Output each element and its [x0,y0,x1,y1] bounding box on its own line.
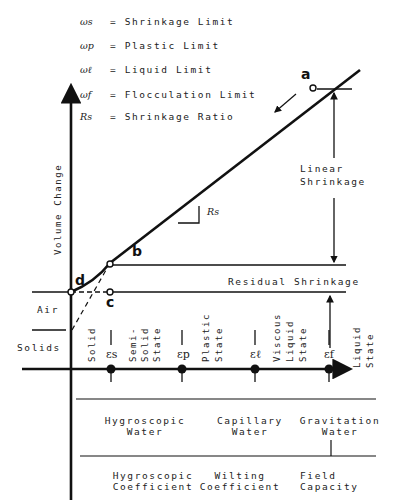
legend-symbol: ωp [80,40,110,51]
legend-item: ωℓ= Liquid Limit [80,64,212,75]
state-viscous-1: Viscous [272,313,282,362]
state-semisolid-3: State [152,327,162,362]
water-capillary: CapillaryWater [200,415,300,437]
state-liquid-2: State [365,333,375,368]
legend-item: ωp= Plastic Limit [80,40,220,51]
air-label: Air [37,304,59,315]
solids-label: Solids [17,342,61,353]
coef-wilting: WiltingCoefficient [190,470,290,492]
state-plastic-1: Plastic [201,313,211,362]
point-label-c: c [106,294,114,310]
point-label-b: b [132,243,142,259]
limit-ef: εf [324,348,334,361]
limit-es: εs [106,348,117,361]
state-viscous-2: Liquid [285,320,295,362]
point-b [107,261,113,267]
point-label-d: d [75,272,85,288]
legend-symbol: Rs [80,111,110,122]
state-liquid-1: Liquid [352,326,362,368]
slope-label: Rs [207,206,219,217]
linear-shrinkage-label: Linear [300,163,344,174]
legend-item: Rs= Shrinkage Ratio [80,111,234,122]
linear-shrinkage-label-2: Shrinkage [300,176,366,187]
legend-symbol: ωs [80,16,110,27]
legend-symbol: ωf [80,89,110,100]
legend-item: ωf= Flocculation Limit [80,89,256,100]
point-a [310,85,316,91]
limit-ep: εp [177,348,190,361]
state-semisolid-1: Semi- [128,327,138,362]
limit-el: εℓ [250,348,261,361]
point-d [68,289,74,295]
water-hygroscopic: HygroscopicWater [90,415,200,437]
water-gravitation: GravitationWater [290,415,390,437]
legend-symbol: ωℓ [80,64,110,75]
y-axis-label: Volume Change [53,164,63,255]
state-plastic-2: State [214,327,224,362]
coef-field-capacity: FieldCapacity [300,470,359,492]
residual-shrinkage-label: Residual Shrinkage [228,276,360,287]
state-semisolid-2: Solid [140,327,150,362]
state-solid: Solid [87,327,97,362]
legend-item: ωs= Shrinkage Limit [80,16,234,27]
state-viscous-3: State [298,327,308,362]
point-label-a: a [301,66,310,82]
